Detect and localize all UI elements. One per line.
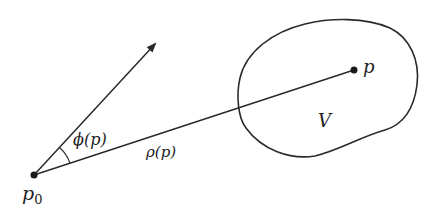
point-p0-label: p0 [22,182,42,207]
region-label: V [318,110,333,131]
point-p0-main: p [22,182,34,204]
angle-arc [60,148,70,163]
angle-label: ϕ(p) [73,130,107,149]
point-p-dot [351,67,358,74]
point-p0-subscript: 0 [34,192,42,207]
point-p-label: p [363,56,375,77]
point-p0-dot [31,172,38,179]
distance-label: ρ(p) [145,143,176,161]
diagram-canvas: ϕ(p) ρ(p) V p p0 [0,0,444,213]
region-v-boundary [238,20,418,157]
